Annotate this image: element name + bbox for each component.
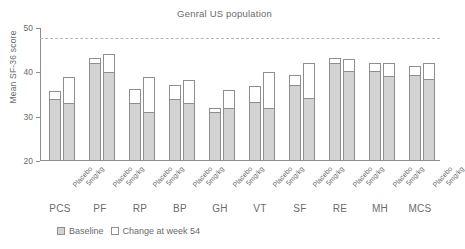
y-tick-mark bbox=[36, 72, 40, 73]
bar-gh-placebo bbox=[209, 108, 221, 161]
group-label-sf: SF bbox=[280, 203, 320, 214]
bar-segment-baseline bbox=[289, 85, 301, 161]
y-tick-label: 50 bbox=[13, 23, 33, 33]
bar-segment-baseline bbox=[369, 71, 381, 161]
bar-pf-placebo bbox=[89, 58, 101, 161]
bar-segment-baseline bbox=[409, 75, 421, 161]
legend-item-baseline: Baseline bbox=[57, 226, 104, 236]
group-label-pcs: PCS bbox=[40, 203, 80, 214]
bar-bp-5mgkg bbox=[183, 80, 195, 161]
plot-area: 20304050 bbox=[40, 28, 440, 161]
bar-re-5mgkg bbox=[343, 59, 355, 161]
group-label-vt: VT bbox=[240, 203, 280, 214]
y-tick-label: 20 bbox=[13, 156, 33, 166]
bar-segment-baseline bbox=[63, 103, 75, 161]
bar-segment-baseline bbox=[223, 108, 235, 161]
chart-legend: BaselineChange at week 54 bbox=[57, 226, 200, 236]
y-tick-label: 40 bbox=[13, 67, 33, 77]
bar-segment-baseline bbox=[169, 99, 181, 161]
bar-segment-baseline bbox=[49, 99, 61, 161]
y-tick-label: 30 bbox=[13, 112, 33, 122]
bar-mcs-placebo bbox=[409, 66, 421, 161]
bar-mh-5mgkg bbox=[383, 63, 395, 161]
bar-segment-baseline bbox=[129, 103, 141, 161]
bar-vt-5mgkg bbox=[263, 72, 275, 161]
group-label-bp: BP bbox=[160, 203, 200, 214]
bar-pcs-5mgkg bbox=[63, 77, 75, 161]
legend-item-change: Change at week 54 bbox=[111, 226, 201, 236]
bar-segment-baseline bbox=[89, 63, 101, 161]
group-label-re: RE bbox=[320, 203, 360, 214]
bar-bp-placebo bbox=[169, 85, 181, 161]
legend-label: Change at week 54 bbox=[123, 226, 201, 236]
y-axis-line bbox=[40, 28, 41, 161]
bar-segment-baseline bbox=[183, 103, 195, 161]
bar-segment-baseline bbox=[103, 72, 115, 161]
chart-title: Genral US population bbox=[0, 8, 449, 19]
y-tick-mark bbox=[36, 161, 40, 162]
group-label-rp: RP bbox=[120, 203, 160, 214]
bar-vt-placebo bbox=[249, 86, 261, 161]
bar-mcs-5mgkg bbox=[423, 63, 435, 161]
legend-swatch-icon bbox=[57, 227, 65, 235]
legend-swatch-icon bbox=[111, 227, 119, 235]
bar-segment-baseline bbox=[383, 76, 395, 161]
group-label-pf: PF bbox=[80, 203, 120, 214]
bar-segment-baseline bbox=[303, 98, 315, 161]
bar-sf-5mgkg bbox=[303, 63, 315, 161]
bar-sf-placebo bbox=[289, 75, 301, 161]
bar-pf-5mgkg bbox=[103, 54, 115, 161]
bar-mh-placebo bbox=[369, 63, 381, 161]
bar-gh-5mgkg bbox=[223, 90, 235, 161]
bar-re-placebo bbox=[329, 58, 341, 161]
bar-rp-5mgkg bbox=[143, 77, 155, 161]
y-tick-mark bbox=[36, 28, 40, 29]
group-label-gh: GH bbox=[200, 203, 240, 214]
bar-segment-baseline bbox=[209, 112, 221, 161]
y-tick-mark bbox=[36, 117, 40, 118]
group-label-mh: MH bbox=[360, 203, 400, 214]
legend-label: Baseline bbox=[69, 226, 104, 236]
bar-pcs-placebo bbox=[49, 91, 61, 161]
group-label-mcs: MCS bbox=[400, 203, 440, 214]
bar-segment-baseline bbox=[143, 112, 155, 161]
bar-rp-placebo bbox=[129, 89, 141, 161]
bar-segment-baseline bbox=[343, 71, 355, 161]
bar-segment-baseline bbox=[249, 102, 261, 161]
reference-line bbox=[40, 38, 440, 39]
bar-segment-baseline bbox=[329, 63, 341, 161]
bar-segment-baseline bbox=[263, 108, 275, 161]
bar-segment-baseline bbox=[423, 79, 435, 161]
